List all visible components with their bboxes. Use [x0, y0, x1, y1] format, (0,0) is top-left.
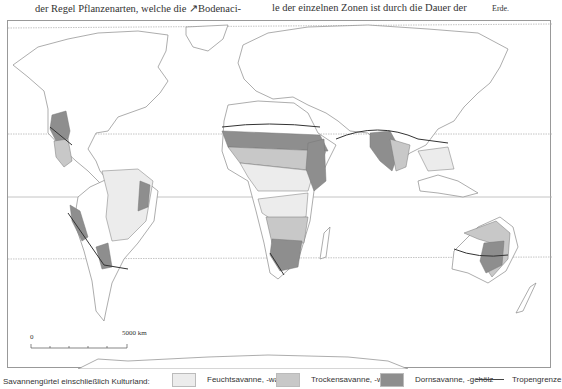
legend-label: Feuchtsavanne, -wald: [207, 375, 285, 384]
scale-ruler: [30, 343, 130, 349]
world-savanna-map: 0 5000 km: [7, 20, 551, 368]
legend-item-feuchtsavanne: Feuchtsavanne, -wald: [172, 372, 285, 387]
scale-start-label: 0: [30, 333, 34, 341]
legend-item-tropengrenze: Tropengrenze: [476, 372, 562, 387]
header-text: der Regel Pflanzenarten, welche die ↗Bod…: [0, 2, 557, 16]
header-col-1: der Regel Pflanzenarten, welche die ↗Bod…: [35, 2, 241, 14]
trockensavanne-swatch: [276, 373, 300, 387]
header-col-3: Erde.: [492, 4, 509, 13]
dornsavanne-swatch: [380, 373, 404, 387]
legend-item-trockensavanne: Trockensavanne, -wald: [276, 372, 393, 387]
legend-title: Savannengürtel einschließlich Kulturland…: [3, 377, 150, 386]
scale-end-label: 5000 km: [122, 329, 147, 337]
feuchtsavanne-swatch: [172, 373, 196, 387]
map-legend: Savannengürtel einschließlich Kulturland…: [0, 372, 557, 389]
legend-label: Tropengrenze: [512, 375, 562, 384]
map-graphic: [8, 21, 552, 369]
header-col-2: le der einzelnen Zonen ist durch die Dau…: [272, 2, 467, 13]
tropengrenze-line-swatch: [476, 379, 504, 380]
